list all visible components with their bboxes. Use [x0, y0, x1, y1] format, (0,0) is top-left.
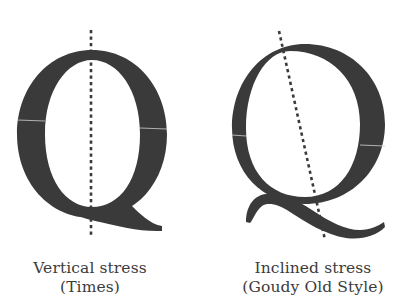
caption-vertical-stress: Vertical stress (Times)	[20, 259, 160, 297]
q-glyph-goudy	[232, 44, 385, 239]
stress-comparison-figure	[0, 0, 409, 250]
caption-title: Inclined stress	[228, 259, 398, 278]
caption-typeface: (Goudy Old Style)	[228, 278, 398, 297]
caption-typeface: (Times)	[20, 278, 160, 297]
caption-inclined-stress: Inclined stress (Goudy Old Style)	[228, 259, 398, 297]
caption-title: Vertical stress	[20, 259, 160, 278]
